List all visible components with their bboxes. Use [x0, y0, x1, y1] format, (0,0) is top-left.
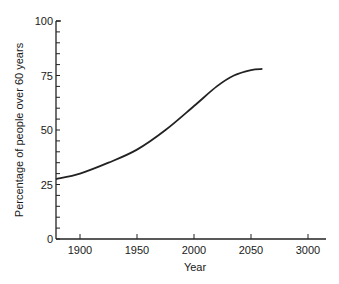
- x-tick-label: 2050: [239, 244, 263, 256]
- y-tick-label: 50: [41, 124, 53, 136]
- x-tick-label: 1900: [68, 244, 92, 256]
- line-chart: 0255075100 19001950200020503000 Percenta…: [0, 0, 339, 284]
- y-tick-label: 25: [41, 179, 53, 191]
- y-tick-label: 0: [47, 233, 53, 245]
- y-tick-label: 100: [35, 15, 53, 27]
- y-axis: 0255075100: [35, 15, 61, 245]
- y-tick-label: 75: [41, 70, 53, 82]
- x-axis: 19001950200020503000: [56, 234, 326, 256]
- y-axis-title: Percentage of people over 60 years: [13, 42, 25, 217]
- x-tick-label: 2000: [182, 244, 206, 256]
- data-line: [56, 69, 262, 179]
- x-tick-label: 1950: [125, 244, 149, 256]
- x-tick-label: 3000: [296, 244, 320, 256]
- x-axis-title: Year: [184, 261, 207, 273]
